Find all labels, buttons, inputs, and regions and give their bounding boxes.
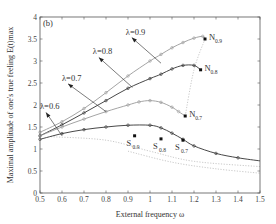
- plot-curves: [39, 35, 260, 173]
- y-tick-label: 3: [33, 57, 37, 66]
- x-tick-label: 1: [148, 195, 152, 204]
- x-tick-label: 1.5: [255, 195, 265, 204]
- point-label-subscript: 0.8: [211, 69, 218, 75]
- point-label-subscript: 0.9: [133, 144, 140, 150]
- y-tick-label: 2: [33, 101, 37, 110]
- point-label: S: [127, 138, 132, 148]
- x-tick-label: 1.4: [233, 195, 243, 204]
- arrow-head-icon: [46, 112, 50, 117]
- series-line: [40, 125, 260, 161]
- x-tick-label: 1.2: [189, 195, 199, 204]
- y-tick-label: 0: [33, 189, 37, 198]
- point-label: S: [175, 142, 180, 152]
- point-label-subscript: 0.9: [215, 38, 222, 44]
- marked-point: [182, 139, 185, 142]
- point-label-subscript: 0.7: [195, 115, 202, 121]
- point-label-subscript: 0.8: [159, 147, 166, 153]
- panel-label: (b): [43, 18, 53, 28]
- arrow-line: [132, 38, 161, 64]
- x-axis-label: External frequency ω: [116, 210, 184, 219]
- y-axis-label: Maximal amplitude of one's true feeling …: [6, 27, 15, 184]
- x-tick-label: 0.8: [101, 195, 111, 204]
- plot-frame: [40, 17, 260, 193]
- lambda-label: λ=0.6: [40, 101, 60, 111]
- marked-point: [199, 68, 202, 71]
- x-tick-label: 1.1: [167, 195, 177, 204]
- y-tick-label: 2.5: [28, 79, 38, 88]
- y-tick-label: 4: [33, 13, 37, 22]
- lambda-label: λ=0.8: [93, 46, 113, 56]
- chart: 0.50.60.70.80.911.11.21.31.41.500.511.52…: [0, 0, 276, 224]
- x-tick-label: 0.6: [57, 195, 67, 204]
- arrow-line: [68, 84, 106, 112]
- x-tick-label: 0.7: [79, 195, 89, 204]
- y-tick-label: 1.5: [28, 123, 38, 132]
- y-tick-label: 1: [33, 145, 37, 154]
- marked-point: [160, 137, 163, 140]
- lambda-label: λ=0.9: [126, 27, 146, 37]
- marked-point: [133, 134, 136, 137]
- arrow-line: [99, 57, 133, 87]
- y-tick-label: 3.5: [28, 35, 38, 44]
- marked-point: [184, 115, 187, 118]
- annotations: λ=0.9λ=0.8λ=0.7λ=0.6N0.9N0.8N0.7S0.9S0.8…: [40, 27, 222, 155]
- lambda-label: λ=0.7: [62, 73, 82, 83]
- dotted-locus: [185, 39, 205, 116]
- series-line: [40, 36, 205, 132]
- x-tick-label: 0.9: [123, 195, 133, 204]
- x-tick-label: 1.3: [211, 195, 221, 204]
- y-tick-label: 0.5: [28, 167, 38, 176]
- arrow-head-icon: [68, 84, 73, 89]
- series-line: [40, 101, 185, 136]
- dotted-locus: [128, 151, 260, 173]
- axis-ticks: 0.50.60.70.80.911.11.21.31.41.500.511.52…: [28, 13, 265, 205]
- marked-point: [204, 38, 207, 41]
- point-label: S: [153, 141, 158, 151]
- point-label-subscript: 0.7: [181, 148, 188, 154]
